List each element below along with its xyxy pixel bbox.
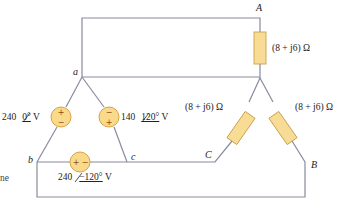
load-label-ZA: (8 + j6) Ω xyxy=(272,44,310,54)
source-label-Vab: 2400° V xyxy=(2,113,40,123)
node-label-a: a xyxy=(73,67,78,77)
cropped-text-fragment: ne xyxy=(0,173,9,183)
svg-text:+: + xyxy=(73,158,80,167)
svg-text:+: + xyxy=(58,108,65,117)
voltage-source-Vab: + − xyxy=(51,107,71,127)
source-label-Vbc: 240−120° V xyxy=(58,173,112,183)
node-label-C: C xyxy=(205,150,212,160)
voltage-source-Vca: − + xyxy=(99,107,119,127)
voltage-source-Vbc: + − xyxy=(70,152,90,172)
circuit-diagram: + − − + + − xyxy=(0,0,344,206)
node-label-b: b xyxy=(28,155,33,165)
wire-Vab-to-b xyxy=(37,127,57,162)
node-label-A: A xyxy=(256,3,262,13)
svg-text:−: − xyxy=(58,118,65,127)
wire-a-to-Vab xyxy=(66,77,82,107)
load-impedance-B xyxy=(269,111,297,144)
wire-neutral-to-ZC xyxy=(249,78,260,102)
load-impedance-A xyxy=(254,32,266,64)
wire-a-to-Vca xyxy=(82,77,104,107)
wire-a-to-A xyxy=(82,18,260,77)
wire-neutral-to-ZB xyxy=(260,78,273,102)
svg-text:−: − xyxy=(106,108,113,117)
svg-text:+: + xyxy=(106,118,113,127)
load-label-ZB: (8 + j6) Ω xyxy=(295,103,333,113)
wire-C-to-c xyxy=(127,141,232,162)
node-label-c: c xyxy=(131,152,135,162)
load-label-ZC: (8 + j6) Ω xyxy=(185,103,223,113)
wire-Vca-to-c xyxy=(114,127,127,162)
node-label-B: B xyxy=(311,160,317,170)
source-label-Vca: 140120° V xyxy=(121,113,168,123)
load-impedance-C xyxy=(227,111,255,144)
svg-text:−: − xyxy=(82,158,89,167)
